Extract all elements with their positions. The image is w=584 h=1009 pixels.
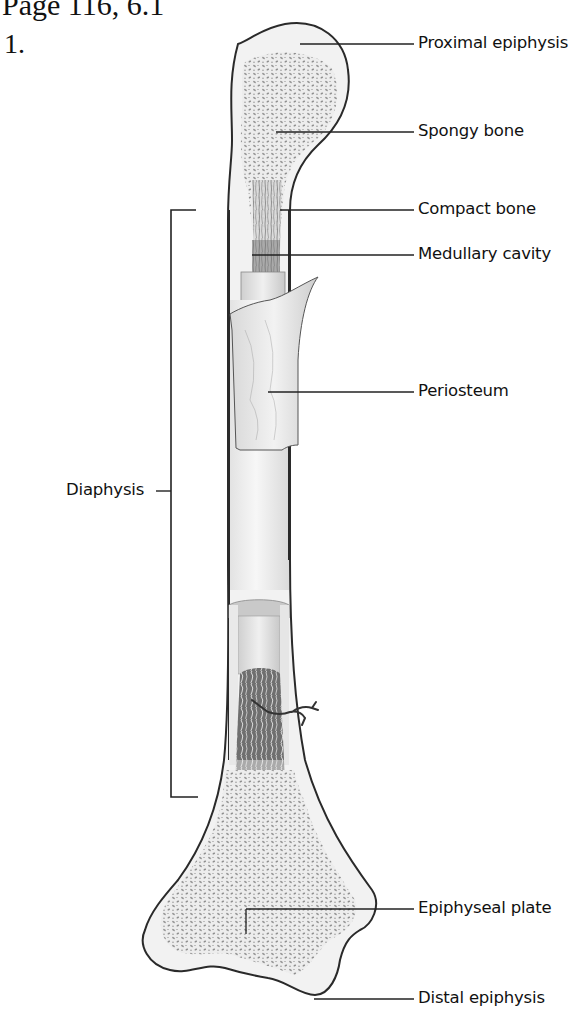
label-compact-bone: Compact bone	[418, 199, 536, 218]
label-distal-epiphysis: Distal epiphysis	[418, 988, 545, 1007]
long-bone-illustration	[0, 0, 584, 1009]
label-epiphyseal-plate: Epiphyseal plate	[418, 898, 551, 917]
label-spongy-bone: Spongy bone	[418, 121, 524, 140]
label-proximal-epiphysis: Proximal epiphysis	[418, 33, 568, 52]
label-medullary-cavity: Medullary cavity	[418, 244, 551, 263]
label-periosteum: Periosteum	[418, 381, 509, 400]
diaphysis-bracket	[171, 210, 198, 797]
label-diaphysis: Diaphysis	[66, 480, 144, 499]
